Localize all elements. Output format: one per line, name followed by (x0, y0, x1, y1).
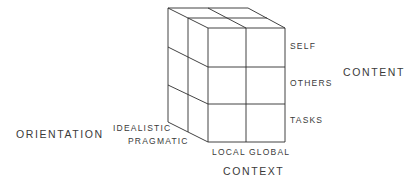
content-level-others: OTHERS (290, 78, 333, 88)
content-level-self: SELF (290, 41, 316, 51)
orientation-axis-title: ORIENTATION (16, 128, 104, 140)
context-level-global: GLOBAL (249, 147, 290, 157)
orientation-level-pragmatic: PRAGMATIC (128, 136, 189, 146)
orientation-level-idealistic: IDEALISTIC (113, 123, 171, 133)
cube-diagram (0, 0, 410, 187)
content-axis-title: CONTENT (343, 66, 405, 78)
context-level-local: LOCAL (212, 147, 246, 157)
context-axis-title: CONTEXT (223, 165, 284, 177)
cube-top-face (168, 8, 285, 28)
content-level-tasks: TASKS (290, 115, 323, 125)
cube-side-face (168, 8, 208, 142)
cube-front-face (208, 28, 285, 142)
